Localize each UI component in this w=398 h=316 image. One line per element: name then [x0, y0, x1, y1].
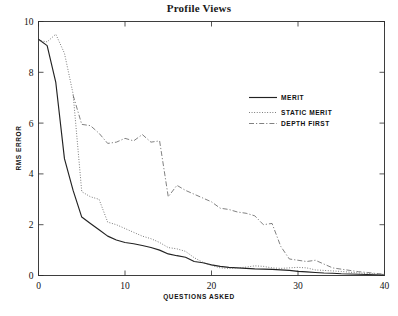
y-axis-ticks: [39, 22, 385, 276]
x-axis-ticks: [39, 22, 385, 276]
series-line-depth-first: [73, 95, 384, 274]
y-tick-label-0: 0: [29, 271, 34, 281]
x-tick-label-20: 20: [207, 281, 217, 291]
chart-figure: Profile Views 010203040 0246810 QUESTION…: [0, 0, 398, 316]
y-tick-label-10: 10: [24, 17, 34, 27]
x-tick-label-40: 40: [380, 281, 390, 291]
series-line-merit: [39, 39, 385, 275]
y-tick-label-6: 6: [29, 119, 34, 129]
x-tick-label-0: 0: [36, 281, 41, 291]
x-tick-label-30: 30: [293, 281, 303, 291]
plot-canvas: 010203040 0246810 QUESTIONS ASKED RMS ER…: [0, 0, 398, 316]
data-series-group: [39, 34, 385, 275]
y-tick-label-8: 8: [29, 68, 34, 78]
legend-label-merit: MERIT: [281, 94, 304, 101]
plot-frame: [39, 22, 385, 276]
y-tick-label-4: 4: [29, 169, 34, 179]
x-axis-tick-labels: 010203040: [36, 281, 389, 291]
y-axis-title: RMS ERROR: [15, 125, 22, 170]
legend-label-static-merit: STATIC MERIT: [281, 109, 332, 116]
y-tick-label-2: 2: [29, 220, 34, 230]
legend: MERIT STATIC MERIT DEPTH FIRST: [249, 94, 332, 127]
x-tick-label-10: 10: [120, 281, 130, 291]
y-axis-tick-labels: 0246810: [24, 17, 34, 281]
x-axis-title: QUESTIONS ASKED: [163, 293, 235, 301]
series-line-static-merit: [39, 34, 385, 274]
legend-label-depth-first: DEPTH FIRST: [281, 120, 330, 127]
